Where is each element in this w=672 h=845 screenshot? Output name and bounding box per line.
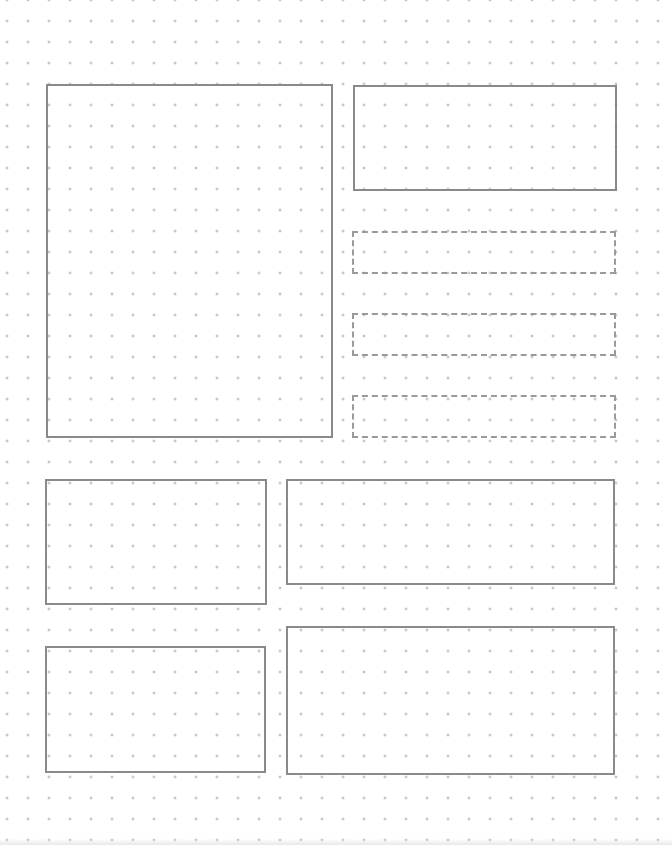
large-panel-left bbox=[46, 84, 333, 438]
panel-top-right bbox=[353, 85, 617, 191]
page-edge-shadow bbox=[0, 839, 672, 845]
panel-bottom-right bbox=[286, 626, 615, 775]
placeholder-box-1 bbox=[352, 231, 616, 274]
placeholder-box-3 bbox=[352, 395, 616, 438]
panel-mid-right bbox=[286, 479, 615, 585]
placeholder-box-2 bbox=[352, 313, 616, 356]
panel-mid-left bbox=[45, 479, 267, 605]
panel-bottom-left bbox=[45, 646, 266, 773]
